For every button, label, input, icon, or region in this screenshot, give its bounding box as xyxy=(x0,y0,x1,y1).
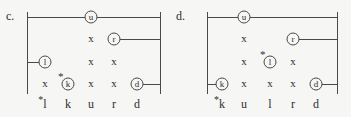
left-rail xyxy=(27,12,28,94)
circle-node-l: l xyxy=(39,56,52,69)
column-label-k: k xyxy=(65,98,71,110)
star-mark: * xyxy=(58,71,64,82)
diagram-c-label: c. xyxy=(6,10,14,22)
connector-line xyxy=(207,17,238,18)
figure: c. d. urlk*dxxxxxx*lkurdurl*kdxxxxxx*kul… xyxy=(0,0,351,117)
column-label-u: u xyxy=(241,98,247,110)
star-superscript: * xyxy=(214,95,219,105)
connector-line xyxy=(250,17,337,18)
x-mark: x xyxy=(290,56,296,67)
column-label-d: d xyxy=(313,98,319,110)
x-mark: x xyxy=(267,78,273,89)
column-label-l: l xyxy=(268,98,271,110)
right-rail xyxy=(337,12,338,94)
circle-node-d: d xyxy=(310,78,323,91)
column-label-u: u xyxy=(88,98,94,110)
connector-line xyxy=(143,84,160,85)
connector-line xyxy=(97,17,160,18)
circle-node-r: r xyxy=(287,33,300,46)
left-rail xyxy=(207,12,208,94)
star-mark: * xyxy=(260,49,266,60)
circle-node-r: r xyxy=(108,33,121,46)
circle-node-d: d xyxy=(131,78,144,91)
right-rail xyxy=(160,12,161,94)
circle-node-u: u xyxy=(238,11,251,24)
star-superscript: * xyxy=(38,95,43,105)
connector-line xyxy=(322,84,337,85)
x-mark: x xyxy=(42,78,48,89)
x-mark: x xyxy=(111,56,117,67)
connector-line xyxy=(27,62,39,63)
x-mark: x xyxy=(88,78,94,89)
x-mark: x xyxy=(88,33,94,44)
x-mark: x xyxy=(290,78,296,89)
connector-line xyxy=(120,39,160,40)
x-mark: x xyxy=(241,78,247,89)
column-label-l: *l xyxy=(43,98,46,110)
column-label-d: d xyxy=(134,98,140,110)
circle-node-k: k xyxy=(216,78,229,91)
x-mark: x xyxy=(241,56,247,67)
column-label-r: r xyxy=(291,98,295,110)
circle-node-u: u xyxy=(85,11,98,24)
connector-line xyxy=(27,17,85,18)
column-label-r: r xyxy=(112,98,116,110)
x-mark: x xyxy=(111,78,117,89)
diagram-d-label: d. xyxy=(176,10,185,22)
x-mark: x xyxy=(88,56,94,67)
connector-line xyxy=(299,39,337,40)
column-label-k: *k xyxy=(219,98,225,110)
x-mark: x xyxy=(241,33,247,44)
